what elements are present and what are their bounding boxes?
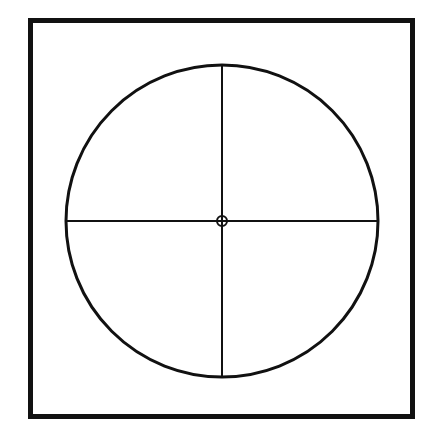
figure-canvas: Circle with crosshair inside square fram… [0,0,439,438]
line-drawing-svg [0,0,439,438]
